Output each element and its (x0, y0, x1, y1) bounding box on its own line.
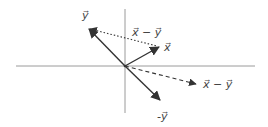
vector-y (89, 29, 125, 66)
label-neg-y: -y⃗ (157, 110, 168, 123)
origin-point (124, 65, 127, 68)
label-x-minus-y-top: x⃗ − y⃗ (131, 26, 162, 39)
label-x: x⃗ (163, 41, 171, 54)
vector-diagram: y⃗ x⃗ x⃗ − y⃗ x⃗ − y⃗ -y⃗ (0, 0, 268, 127)
vector-x-minus-y-dashed (125, 66, 196, 84)
label-y: y⃗ (81, 9, 89, 22)
vector-neg-y (125, 66, 160, 100)
vector-x (125, 47, 159, 66)
label-x-minus-y-right: x⃗ − y⃗ (202, 78, 233, 91)
